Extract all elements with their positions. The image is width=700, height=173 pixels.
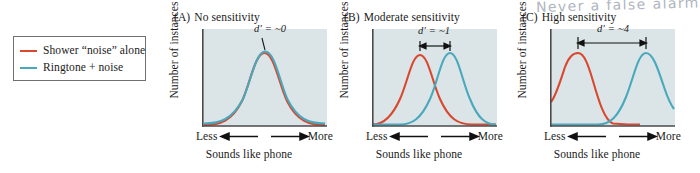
legend-swatch-signal xyxy=(20,67,37,69)
panel-b-dprime-label: d′ = ~1 xyxy=(418,25,450,36)
panel-c-high-sensitivity: (C)High sensitivity Number of instances … xyxy=(508,0,686,173)
panel-a-x-axis-row: Less More xyxy=(196,129,333,145)
panel-c-x-axis-label: Sounds like phone xyxy=(508,148,686,160)
panel-a-direction-arrows xyxy=(196,129,333,145)
panel-c-dprime-marker xyxy=(550,29,675,126)
panel-c-y-axis-label: Number of instances xyxy=(516,0,528,100)
panel-a-y-axis-label: Number of instances xyxy=(168,0,180,100)
panel-c-direction-arrows xyxy=(544,129,681,145)
panel-c-plot-area: d′ = ~4 xyxy=(550,29,675,126)
panel-a-plot-area: d′ = ~0 xyxy=(202,29,327,126)
panel-b-plot-area: d′ = ~1 xyxy=(372,29,497,126)
panel-a-dprime-label: d′ = ~0 xyxy=(254,23,286,34)
panel-c-dprime-label: d′ = ~4 xyxy=(597,23,629,34)
legend-swatch-noise xyxy=(20,50,37,52)
panel-b-title-text: Moderate sensitivity xyxy=(364,11,460,23)
panel-b-dprime-marker xyxy=(372,29,497,126)
panel-b-x-axis-label: Sounds like phone xyxy=(330,148,508,160)
legend-item-signal: Ringtone + noise xyxy=(20,59,145,76)
legend-item-noise: Shower “noise” alone xyxy=(20,42,145,59)
panel-b-title: (B)Moderate sensitivity xyxy=(344,11,460,23)
legend-label-noise: Shower “noise” alone xyxy=(43,45,145,57)
panel-a-title-text: No sensitivity xyxy=(194,11,260,23)
legend: Shower “noise” alone Ringtone + noise xyxy=(13,36,146,81)
panel-a-leader-line xyxy=(262,38,265,50)
panel-b-direction-arrows xyxy=(366,129,503,145)
panel-a-no-sensitivity: (A)No sensitivity Number of instances d′… xyxy=(160,0,338,173)
panel-b-x-axis-row: Less More xyxy=(366,129,503,145)
panel-b-moderate-sensitivity: (B)Moderate sensitivity Number of instan… xyxy=(330,0,508,173)
panel-a-dprime-marker xyxy=(202,29,327,126)
panel-b-y-axis-label: Number of instances xyxy=(338,0,350,100)
panel-a-title: (A)No sensitivity xyxy=(174,11,260,23)
panel-a-x-axis-label: Sounds like phone xyxy=(160,148,338,160)
panel-c-x-axis-row: Less More xyxy=(544,129,681,145)
legend-label-signal: Ringtone + noise xyxy=(43,62,123,74)
